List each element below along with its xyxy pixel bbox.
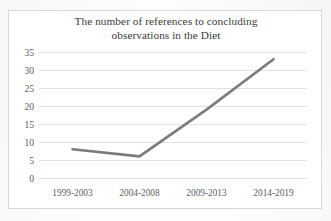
x-axis-tick-label: 2004-2008: [119, 188, 159, 198]
scanned-page-background: The number of references to concluding o…: [0, 0, 331, 221]
y-axis-tick-label: 30: [24, 64, 34, 75]
chart-container: The number of references to concluding o…: [8, 10, 322, 209]
y-axis-tick-label: 35: [24, 47, 34, 58]
gridline-0-axis: 0: [39, 178, 307, 179]
y-axis-tick-label: 25: [24, 82, 34, 93]
x-axis-tick-label: 2009-2013: [186, 188, 226, 198]
y-axis-tick-label: 15: [24, 118, 34, 129]
x-axis-tick-label: 2014-2019: [253, 188, 293, 198]
chart-title: The number of references to concluding o…: [29, 15, 303, 42]
y-axis-tick-label: 0: [29, 173, 34, 184]
plot-area: 35 30 25 20 15 10 5 0 199: [39, 52, 307, 178]
chart-title-line-2: observations in the Diet: [29, 29, 303, 43]
x-axis-tick-label: 1999-2003: [52, 188, 92, 198]
chart-title-line-1: The number of references to concluding: [29, 15, 303, 29]
y-axis-tick-label: 20: [24, 100, 34, 111]
y-axis-tick-label: 5: [29, 154, 34, 165]
data-series-line: [39, 52, 307, 178]
y-axis-tick-label: 10: [24, 136, 34, 147]
